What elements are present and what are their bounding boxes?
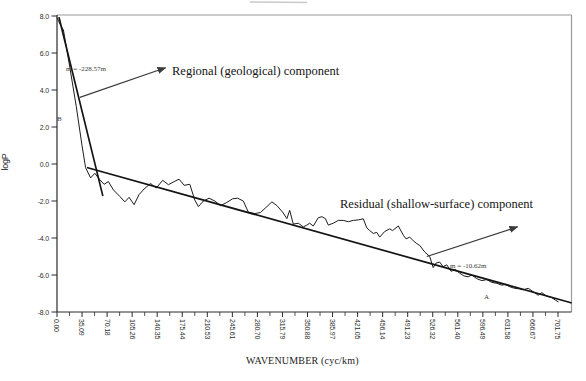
y-tick-label: 0.0 bbox=[40, 161, 49, 168]
scan-artifact-line bbox=[250, 2, 307, 3]
x-tick-label: 105.26 bbox=[129, 319, 136, 340]
regional-component-label: Regional (geological) component bbox=[172, 64, 339, 79]
x-tick-label: 701.75 bbox=[554, 319, 561, 340]
x-tick-label: 245.61 bbox=[229, 319, 236, 340]
y-tick-label: -8.0 bbox=[38, 309, 50, 316]
y-tick-label: -6.0 bbox=[38, 272, 50, 279]
y-tick-label: -2.0 bbox=[38, 198, 50, 205]
power-spectrum-figure: 8.06.04.02.00.0-2.0-4.0-6.0-8.00.0035.09… bbox=[0, 0, 586, 381]
x-tick-label: 210.53 bbox=[204, 319, 211, 340]
x-tick-label: 456.14 bbox=[379, 319, 386, 340]
x-tick-label: 35.09 bbox=[78, 319, 85, 336]
point-a-label: A bbox=[484, 293, 489, 301]
regional-fit-line bbox=[59, 18, 103, 196]
x-axis-title: WAVENUMBER (cyc/km) bbox=[246, 355, 359, 366]
x-tick-label: 491.23 bbox=[404, 319, 411, 340]
y-tick-label: 6.0 bbox=[40, 50, 49, 57]
regional-slope-label: m = -228.57m bbox=[66, 65, 106, 73]
x-tick-label: 280.70 bbox=[254, 319, 261, 340]
x-tick-label: 350.88 bbox=[304, 319, 311, 340]
y-axis-title: logP bbox=[0, 153, 10, 170]
x-tick-label: 0.00 bbox=[53, 319, 60, 332]
y-tick-label: 4.0 bbox=[40, 87, 49, 94]
x-tick-label: 315.79 bbox=[279, 319, 286, 340]
x-tick-label: 385.97 bbox=[329, 319, 336, 340]
y-tick-label: 8.0 bbox=[40, 13, 49, 20]
x-tick-label: 596.49 bbox=[479, 319, 486, 340]
plot-canvas: 8.06.04.02.00.0-2.0-4.0-6.0-8.00.0035.09… bbox=[0, 0, 586, 381]
residual-slope-label: m = -10.62m bbox=[450, 262, 486, 270]
x-tick-label: 561.40 bbox=[454, 319, 461, 340]
x-tick-label: 140.35 bbox=[154, 319, 161, 340]
y-tick-label: 2.0 bbox=[40, 124, 49, 131]
x-tick-label: 70.18 bbox=[104, 319, 111, 336]
power-spectrum-line bbox=[57, 18, 558, 302]
x-tick-label: 666.67 bbox=[529, 319, 536, 340]
x-tick-label: 421.05 bbox=[354, 319, 361, 340]
residual-fit-line bbox=[88, 168, 571, 303]
point-b-label: B bbox=[57, 115, 62, 123]
x-tick-label: 175.44 bbox=[179, 319, 186, 340]
residual-arrow bbox=[427, 227, 518, 257]
residual-component-label: Residual (shallow-surface) component bbox=[340, 197, 533, 212]
y-tick-label: -4.0 bbox=[38, 235, 50, 242]
x-tick-label: 631.58 bbox=[504, 319, 511, 340]
x-tick-label: 526.32 bbox=[429, 319, 436, 340]
